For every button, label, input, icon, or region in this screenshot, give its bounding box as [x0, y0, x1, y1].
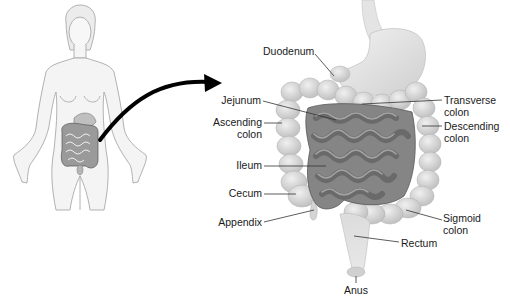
body-figure: [14, 5, 147, 210]
label-jejunum: Jejunum: [218, 94, 261, 106]
label-rectum: Rectum: [401, 237, 437, 249]
rectum: [340, 213, 370, 273]
label-ileum: Ileum: [222, 159, 262, 171]
diagram-illustration: [0, 0, 510, 301]
label-ascending-colon: Ascending colon: [206, 116, 262, 140]
label-cecum: Cecum: [220, 187, 262, 199]
label-duodenum: Duodenum: [263, 45, 314, 57]
label-appendix: Appendix: [212, 216, 262, 228]
label-anus: Anus: [340, 284, 372, 296]
label-transverse-colon: Transverse colon: [444, 94, 496, 118]
intestine-diagram: Duodenum Jejunum Ascending colon Ileum C…: [0, 0, 510, 301]
label-descending-colon: Descending colon: [444, 120, 499, 144]
small-intestine: [306, 104, 415, 209]
label-sigmoid-colon: Sigmoid colon: [443, 212, 481, 236]
